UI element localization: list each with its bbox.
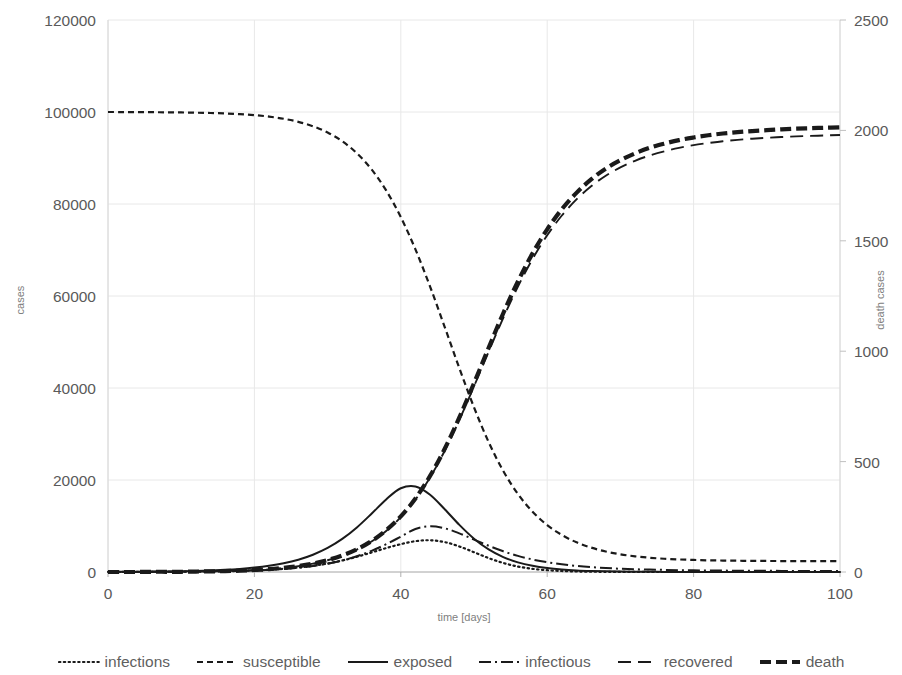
y2-tick-label: 2000 [854,122,889,139]
series-line-death [108,127,840,572]
legend-label: recovered [664,653,733,671]
series-line-infectious [108,526,840,572]
legend-swatch-infections [58,655,100,669]
legend-label: infectious [525,653,590,671]
y2-tick-label: 2500 [854,12,889,29]
legend-item-recovered[interactable]: recovered [617,653,733,671]
legend-item-susceptible[interactable]: susceptible [196,653,321,671]
y-tick-label: 40000 [53,380,96,397]
y-tick-labels: 020000400006000080000100000120000 [44,12,96,581]
chart-legend: infectionssusceptibleexposedinfectiousre… [0,648,902,675]
y-tick-label: 20000 [53,472,96,489]
series-line-exposed [108,486,840,572]
chart-plot-area: 020406080100 020000400006000080000100000… [0,0,902,648]
x-tick-label: 0 [104,585,113,602]
series-paths [108,112,840,572]
axis-lines [108,20,846,577]
x-tick-label: 100 [827,585,853,602]
y2-tick-label: 1500 [854,233,889,250]
y2-tick-label: 500 [854,454,880,471]
y2-tick-label: 0 [854,564,863,581]
y-tick-label: 80000 [53,196,96,213]
legend-swatch-exposed [347,655,389,669]
series-line-susceptible [108,112,840,561]
x-axis-title: time [days] [437,611,490,623]
series-line-recovered [108,135,840,572]
y2-tick-label: 1000 [854,343,889,360]
legend-label: exposed [394,653,453,671]
y-tick-label: 100000 [44,104,96,121]
legend-item-exposed[interactable]: exposed [347,653,453,671]
legend-label: susceptible [243,653,321,671]
gridlines [108,20,840,572]
x-tick-label: 40 [392,585,410,602]
legend-label: infections [105,653,170,671]
chart-figure: 020406080100 020000400006000080000100000… [0,0,902,675]
legend-swatch-susceptible [196,655,238,669]
legend-swatch-death [759,655,801,669]
x-tick-labels: 020406080100 [104,585,854,602]
legend-swatch-infectious [478,655,520,669]
legend-item-death[interactable]: death [759,653,845,671]
y-tick-label: 60000 [53,288,96,305]
y2-axis-title: death cases [874,270,886,330]
legend-item-infections[interactable]: infections [58,653,170,671]
x-tick-label: 80 [685,585,703,602]
legend-item-infectious[interactable]: infectious [478,653,590,671]
y-axis-title: cases [14,285,26,314]
y-tick-label: 120000 [44,12,96,29]
y-tick-label: 0 [87,564,96,581]
x-tick-label: 60 [539,585,557,602]
x-tick-label: 20 [246,585,264,602]
legend-swatch-recovered [617,655,659,669]
series-line-infections [108,540,840,572]
legend-label: death [806,653,845,671]
